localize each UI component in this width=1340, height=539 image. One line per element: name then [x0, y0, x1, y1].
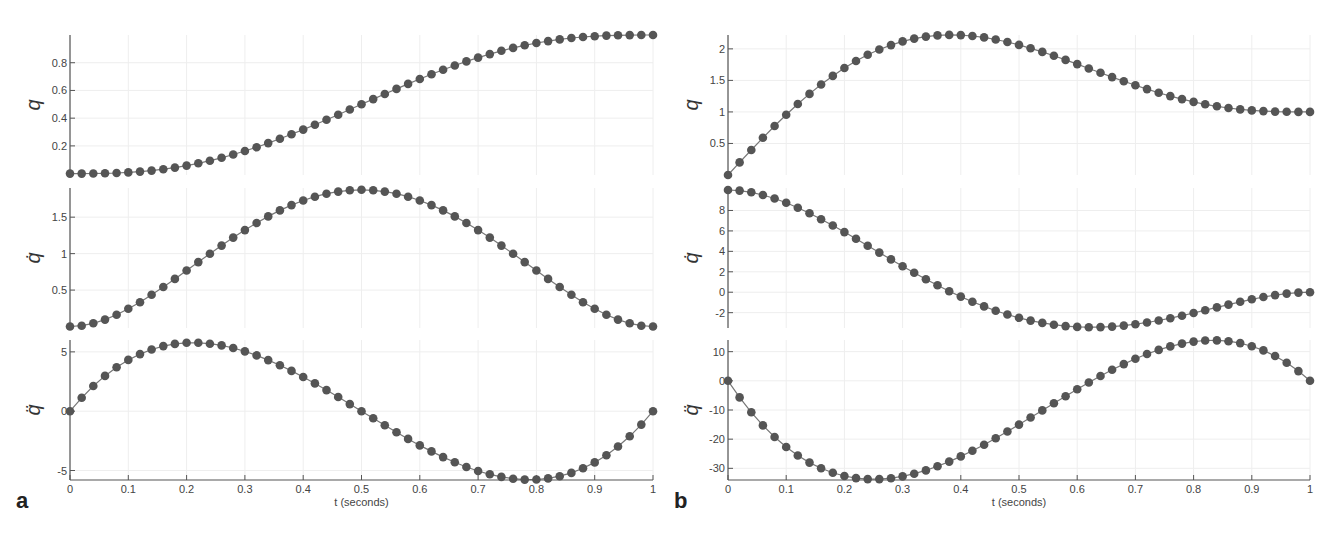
data-point [112, 363, 121, 372]
data-point [1050, 320, 1059, 329]
x-tick-label: 1 [650, 483, 656, 495]
data-point [1038, 406, 1047, 415]
y-tick-label: 1.5 [710, 74, 725, 86]
data-point [1143, 350, 1152, 359]
data-point [392, 189, 401, 198]
y-tick-label: 0.5 [52, 284, 67, 296]
data-point [171, 163, 180, 172]
y-tick-label: 2 [719, 43, 725, 55]
data-point [614, 315, 623, 324]
data-point [287, 367, 296, 376]
data-point [474, 467, 483, 476]
data-point [66, 169, 75, 178]
data-point [486, 233, 495, 242]
data-point [241, 147, 250, 156]
data-point [509, 474, 518, 483]
data-point [532, 39, 541, 48]
data-point [945, 287, 954, 296]
data-point [968, 446, 977, 455]
data-point [991, 434, 1000, 443]
data-point [735, 393, 744, 402]
data-point [863, 51, 872, 60]
data-point [1096, 372, 1105, 381]
data-point [264, 212, 273, 221]
data-point [794, 100, 803, 109]
data-point [1282, 359, 1291, 368]
data-point [544, 474, 553, 483]
x-tick-label: 0.3 [237, 483, 252, 495]
data-point [637, 31, 646, 40]
data-point [171, 275, 180, 284]
data-point [614, 31, 623, 40]
data-point [194, 258, 203, 267]
data-point [1306, 108, 1315, 117]
data-point [1096, 323, 1105, 332]
data-point [1154, 316, 1163, 325]
data-point [101, 315, 110, 324]
data-point [520, 41, 529, 50]
data-point [840, 228, 849, 237]
data-point [264, 139, 273, 148]
data-point [980, 302, 989, 311]
data-point [159, 283, 168, 292]
data-point [357, 186, 366, 195]
data-point [182, 161, 191, 170]
data-point [497, 241, 506, 250]
data-point [590, 305, 599, 314]
data-point [462, 219, 471, 228]
data-point [89, 169, 98, 178]
data-point [1061, 392, 1070, 401]
data-point [147, 291, 156, 300]
data-point [159, 342, 168, 351]
data-point [357, 100, 366, 109]
data-point [805, 90, 814, 99]
data-point [439, 206, 448, 215]
panel-label-b: b [674, 488, 687, 513]
data-point [439, 66, 448, 75]
y-tick-label: 4 [719, 245, 725, 257]
data-point [1026, 413, 1035, 422]
data-point [241, 226, 250, 235]
data-point [252, 351, 261, 360]
data-point [782, 199, 791, 208]
data-point [1248, 342, 1257, 351]
x-tick-label: 0.8 [529, 483, 544, 495]
data-point [567, 291, 576, 300]
data-point [1015, 314, 1024, 323]
y-axis-label-q: q [680, 99, 702, 110]
x-tick-label: 0.1 [121, 483, 136, 495]
data-point [77, 321, 86, 330]
data-point [381, 421, 390, 430]
y-tick-label: 0 [719, 286, 725, 298]
data-point [136, 350, 145, 359]
data-point [217, 241, 226, 250]
data-point [1259, 107, 1268, 116]
data-point [602, 310, 611, 319]
data-point [194, 159, 203, 168]
data-point [334, 187, 343, 196]
data-point [1096, 69, 1105, 78]
data-point [381, 187, 390, 196]
x-axis-label: t (seconds) [992, 496, 1046, 508]
panel-label-a: a [16, 488, 29, 513]
data-point [334, 110, 343, 119]
data-point [206, 250, 215, 259]
data-point [1271, 107, 1280, 116]
data-point [759, 421, 768, 430]
data-point [451, 212, 460, 221]
data-point [747, 146, 756, 155]
data-point [922, 32, 931, 41]
data-point [922, 466, 931, 475]
x-tick-label: 0.5 [354, 483, 369, 495]
data-point [124, 305, 133, 314]
data-point [1038, 319, 1047, 328]
x-tick-label: 0.3 [895, 483, 910, 495]
data-point [1108, 73, 1117, 82]
data-point [1259, 346, 1268, 355]
data-point [637, 321, 646, 330]
data-point [229, 344, 238, 353]
data-point [264, 356, 273, 365]
x-tick-label: 0.4 [296, 483, 311, 495]
data-point [649, 407, 658, 416]
data-point [252, 219, 261, 228]
